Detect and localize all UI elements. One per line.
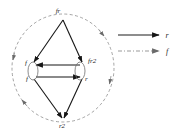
legend-label-r: r (165, 31, 169, 40)
figure-canvas: fr f fr2 f r r2 r f (0, 0, 177, 132)
node-label-left: f (25, 59, 28, 67)
orbit-circle (12, 14, 114, 122)
self-loop-left (28, 62, 38, 80)
legend-label-f: f (166, 47, 170, 56)
node-label-midright: r (85, 75, 88, 83)
orbit-arrowhead-top-right (99, 30, 104, 36)
node-label-top: fr (56, 7, 61, 15)
edge-top-to-right (63, 20, 82, 62)
cayley-graph-figure: fr f fr2 f r r2 r f (0, 0, 177, 132)
legend: r f (118, 31, 170, 56)
edge-midleft-to-bottom (34, 79, 62, 118)
node-label-bottom: r2 (59, 122, 66, 130)
legend-entry-r: r (118, 31, 169, 40)
legend-entry-f: f (118, 47, 170, 56)
node-label-right: fr2 (88, 57, 97, 65)
edge-top-to-left (34, 20, 63, 62)
orbit-arrowhead-right (110, 76, 112, 84)
edge-midright-to-bottom (64, 79, 82, 118)
